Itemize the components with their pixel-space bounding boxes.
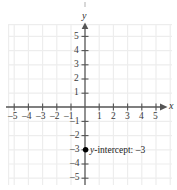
x-axis-label: x [169,101,173,111]
y-tick-label-1: 1 [74,88,79,98]
annotation-text: -intercept: –3 [94,145,145,155]
y-tick-label-neg4: –4 [70,159,80,169]
x-axis [6,104,168,111]
y-tick-label-4: 4 [74,46,79,56]
y-tick-label-3: 3 [74,60,79,70]
x-tick-label-5: 5 [153,112,158,122]
y-tick-label-5: 5 [74,32,79,42]
x-tick-label-2: 2 [111,112,116,122]
y-tick-label-neg1: –1 [70,117,80,127]
x-tick-label-neg4: –4 [22,112,32,122]
x-tick-label-neg2: –2 [50,112,60,122]
y-tick-label-neg3: –3 [70,145,80,155]
x-tick-label-4: 4 [139,112,144,122]
y-intercept-point [83,147,88,152]
coordinate-plane-svg [0,0,177,190]
y-tick-label-neg2: –2 [70,131,80,141]
grid-lines [9,24,172,185]
coordinate-plane-figure: –5 –4 –3 –2 –1 1 2 3 4 5 5 4 3 2 1 –1 –2… [0,0,177,190]
y-axis [82,23,89,186]
y-tick-label-2: 2 [74,74,79,84]
x-tick-label-1: 1 [97,112,102,122]
y-tick-label-neg5: –5 [70,173,80,183]
x-tick-label-3: 3 [125,112,130,122]
y-intercept-annotation: y-intercept: –3 [90,146,145,156]
x-tick-label-neg3: –3 [36,112,46,122]
x-tick-label-neg5: –5 [8,112,18,122]
y-axis-label: y [82,11,86,21]
